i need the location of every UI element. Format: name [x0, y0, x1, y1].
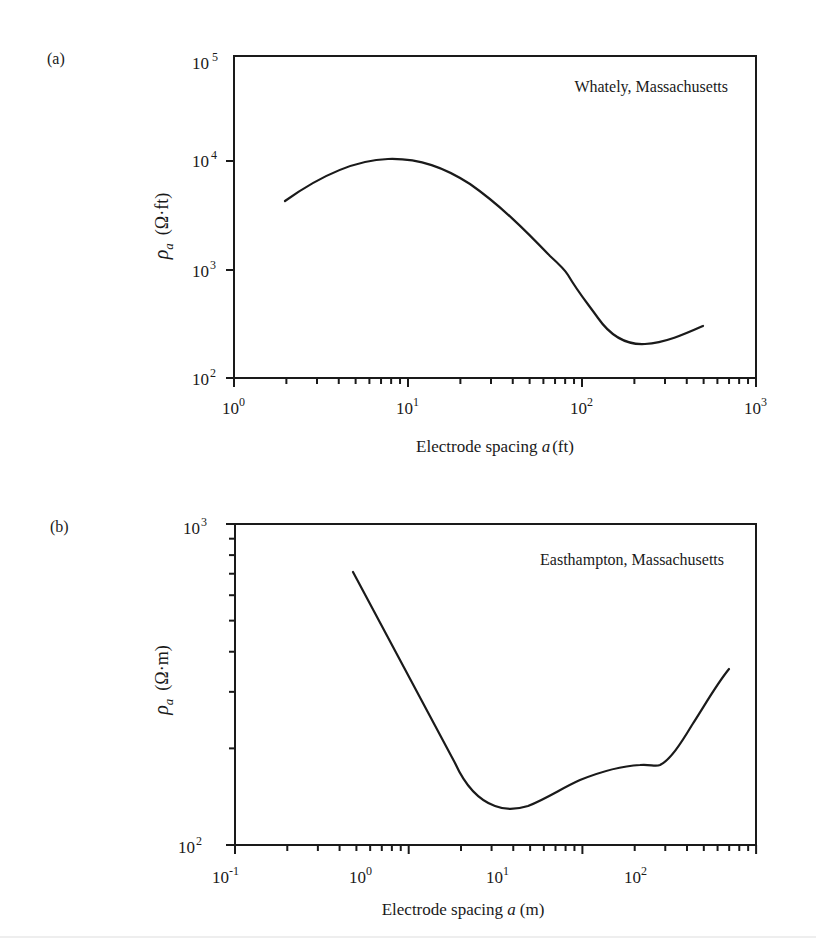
site-annotation-b: Easthampton, Massachusetts	[540, 551, 724, 569]
x-ticks-b	[235, 845, 756, 854]
y-tick-label-b-3: 103	[183, 515, 207, 538]
y-ticks-b	[226, 524, 235, 845]
x-axis-title-a: Electrode spacing a(ft)	[416, 437, 574, 456]
x-tick-label-b-2: 102	[624, 864, 647, 887]
x-tick-label-a-3: 103	[744, 395, 767, 418]
panel-label-a: (a)	[47, 50, 65, 68]
plot-frame-b	[235, 524, 756, 845]
y-tick-label-a-5: 105	[192, 50, 218, 73]
y-tick-label-b-2: 102	[178, 834, 202, 857]
x-tick-label-a-0: 100	[222, 395, 245, 418]
x-tick-label-b-m1: 10-1	[212, 864, 239, 887]
resistivity-curve-a	[285, 159, 703, 344]
x-tick-label-b-0: 100	[349, 864, 372, 887]
panel-label-b: (b)	[50, 518, 69, 536]
page-bleed-through	[0, 936, 816, 938]
x-ticks-a	[234, 378, 756, 387]
y-tick-label-a-2: 102	[192, 366, 216, 389]
x-tick-label-a-1: 101	[396, 395, 419, 418]
y-ticks-a	[226, 161, 234, 378]
plot-frame-a	[234, 56, 756, 378]
y-tick-label-a-3: 103	[192, 258, 216, 281]
chart-b: (b) 103 102 10-1 100 101 102 Electrode s…	[50, 515, 756, 919]
y-axis-title-b: ρa(Ω·m)	[150, 645, 176, 715]
x-tick-label-a-2: 102	[570, 395, 593, 418]
y-axis-title-a: ρa(Ω·ft)	[150, 193, 176, 260]
resistivity-curve-b	[353, 572, 729, 809]
site-annotation-a: Whately, Massachusetts	[574, 78, 728, 96]
chart-a: (a) 105 104 103 102 100 101 102 103 Elec…	[47, 50, 767, 456]
x-tick-label-b-1: 101	[486, 864, 509, 887]
x-axis-title-b: Electrode spacing a(m)	[382, 900, 545, 919]
y-tick-label-a-4: 104	[192, 148, 217, 171]
figure-canvas: (a) 105 104 103 102 100 101 102 103 Elec…	[0, 0, 816, 950]
